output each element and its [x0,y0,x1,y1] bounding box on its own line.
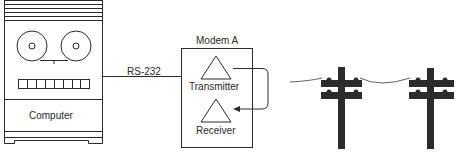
tape-reel-right-icon [61,31,91,61]
computer-icon [5,1,103,144]
modem-title: Modem A [196,36,238,46]
telephone-pole-1-icon [321,67,362,149]
receiver-triangle-icon [201,99,231,122]
receiver-label: Receiver [196,126,235,136]
rs232-label: RS-232 [127,67,161,77]
telephone-pole-2-icon [409,68,454,149]
keyboard-keys-icon [19,80,90,89]
transmitter-label: Transmitter [189,82,239,92]
transmitter-triangle-icon [201,56,231,79]
arrowhead-icon [233,106,240,112]
computer-label: Computer [29,111,73,121]
tape-reel-left-icon [17,31,47,61]
